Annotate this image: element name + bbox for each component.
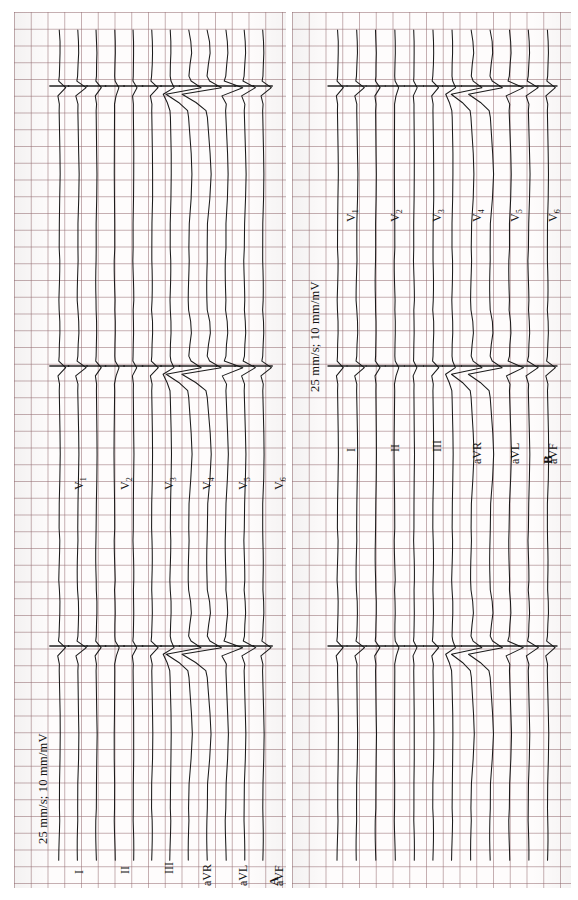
ecg-trace-iii [375, 30, 380, 860]
ecg-trace-ii [76, 30, 87, 860]
ecg-trace-v1 [446, 30, 456, 860]
lead-label-aVR-a: aVR [200, 864, 215, 886]
lead-label-V4-a: V4 [200, 477, 216, 490]
page-margin-right [571, 0, 578, 900]
lead-label-V1-b: V1 [344, 209, 360, 222]
lead-label-aVL-b: aVL [508, 443, 523, 464]
ecg-trace-v4 [222, 30, 243, 860]
lead-label-I-b: I [344, 448, 359, 452]
panel-label-b: B [540, 455, 556, 464]
ecg-trace-iii [95, 30, 101, 860]
lead-label-V2-a: V2 [118, 477, 134, 490]
ecg-figure: 25 mm/s; 10 mm/mV I II III aVR aVL aVF V… [0, 0, 578, 900]
calibration-text-b: 25 mm/s; 10 mm/mV [308, 281, 323, 392]
lead-label-V2-b: V2 [388, 209, 404, 222]
page-margin-bottom [0, 888, 578, 900]
ecg-trace-avl [132, 30, 137, 860]
lead-label-V3-b: V3 [430, 209, 446, 222]
ecg-trace-avr [114, 30, 119, 860]
lead-label-III-a: III [162, 862, 177, 874]
ecg-trace-avl [413, 30, 417, 860]
ecg-trace-v6 [261, 30, 272, 860]
lead-label-aVR-b: aVR [470, 442, 485, 464]
lead-label-V3-a: V3 [162, 477, 178, 490]
ecg-trace-v1 [163, 30, 174, 860]
lead-label-II-a: II [118, 866, 133, 874]
ecg-trace-i [336, 30, 343, 860]
lead-label-V4-b: V4 [470, 209, 486, 222]
ecg-trace-i [58, 30, 66, 860]
lead-label-aVL-a: aVL [236, 865, 251, 886]
ecg-panel-a: 25 mm/s; 10 mm/mV I II III aVR aVL aVF V… [14, 12, 286, 888]
ecg-trace-ii [355, 30, 365, 860]
ecg-trace-avf [150, 30, 158, 860]
lead-label-V5-a: V5 [236, 477, 252, 490]
lead-label-V1-a: V1 [72, 477, 88, 490]
page-margin-top [0, 0, 578, 12]
ecg-trace-svg-a [14, 12, 286, 888]
lead-label-I-a: I [72, 870, 87, 874]
panel-gutter [286, 0, 292, 900]
lead-label-V6-b: V6 [546, 209, 562, 222]
page-margin-left [0, 0, 14, 900]
ecg-trace-v3 [182, 30, 222, 860]
calibration-text-a: 25 mm/s; 10 mm/mV [36, 733, 51, 844]
ecg-trace-v5 [526, 30, 538, 860]
ecg-panel-b: 25 mm/s; 10 mm/mV I II III aVR aVL aVF V… [292, 12, 571, 888]
lead-label-V6-a: V6 [272, 477, 286, 490]
lead-label-III-b: III [430, 440, 445, 452]
lead-label-V5-b: V5 [508, 209, 524, 222]
lead-label-II-b: II [388, 444, 403, 452]
ecg-trace-v5 [242, 30, 256, 860]
panel-label-a: A [266, 877, 282, 886]
ecg-traces-a [14, 12, 286, 888]
